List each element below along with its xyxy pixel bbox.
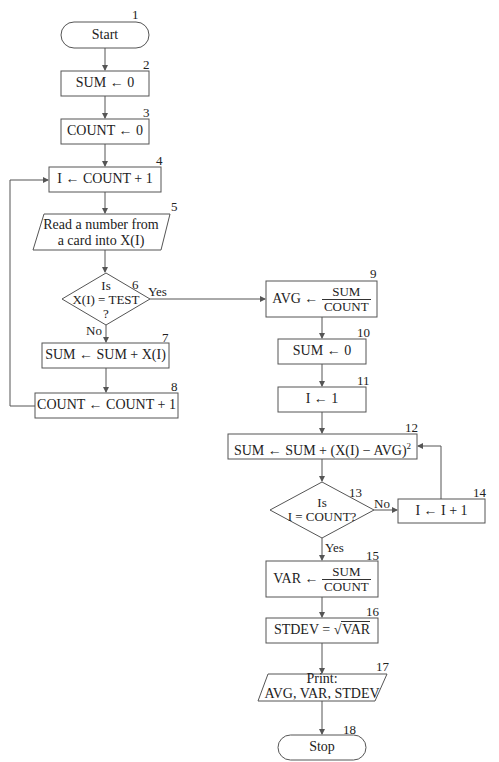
stop-label: Stop — [278, 739, 366, 755]
var-fraction: SUMCOUNT — [322, 565, 371, 594]
flowchart-canvas — [0, 0, 499, 762]
i-init-label: I ← 1 — [278, 391, 366, 407]
node-number: 1 — [132, 7, 139, 23]
var-label: VAR ← SUMCOUNT — [266, 563, 378, 595]
stdev-radicand: VAR — [341, 621, 370, 637]
node-number: 7 — [162, 330, 169, 346]
avg-denominator: COUNT — [322, 300, 371, 314]
stdev-prefix: STDEV = √ — [274, 622, 341, 637]
i-incr-label: I ← I + 1 — [398, 503, 485, 519]
decision13-line2: I = COUNT? — [270, 509, 374, 525]
avg-numerator: SUM — [322, 285, 371, 300]
decision13-yes: Yes — [325, 540, 344, 556]
node-number: 10 — [357, 325, 370, 341]
var-numerator: SUM — [322, 565, 371, 580]
sum-sq-text: SUM ← SUM + (X(I) − AVG) — [234, 443, 407, 458]
read-label-line2: a card into X(I) — [36, 233, 166, 249]
node-number: 11 — [357, 373, 370, 389]
print-label-line1: Print: — [262, 671, 382, 687]
start-label: Start — [61, 27, 149, 43]
var-prefix: VAR ← — [273, 571, 318, 586]
sum-sq-exponent: 2 — [407, 441, 412, 451]
arrow-8-4-loop — [10, 180, 48, 406]
sum-reset-label: SUM ← 0 — [278, 343, 366, 359]
node-number: 8 — [171, 379, 178, 395]
print-label-line2: AVG, VAR, STDEV — [262, 686, 382, 702]
avg-label: AVG ← SUMCOUNT — [266, 283, 377, 315]
arrow-14-12-loop — [418, 446, 441, 499]
avg-prefix: AVG ← — [272, 291, 318, 306]
sum-sq-label: SUM ← SUM + (X(I) − AVG)2 — [228, 438, 417, 459]
node-number: 16 — [366, 604, 379, 620]
node-number: 12 — [405, 420, 418, 436]
node-number: 3 — [143, 105, 150, 121]
avg-fraction: SUMCOUNT — [322, 285, 371, 314]
node-number: 4 — [156, 153, 163, 169]
decision13-no: No — [374, 496, 390, 512]
count-incr-label: COUNT ← COUNT + 1 — [35, 397, 178, 413]
decision6-yes: Yes — [148, 284, 167, 300]
count-init-label: COUNT ← 0 — [61, 123, 149, 139]
i-assign-label: I ← COUNT + 1 — [49, 171, 161, 187]
read-label-line1: Read a number from — [36, 217, 166, 233]
decision6-no: No — [86, 323, 102, 339]
node-number: 9 — [370, 266, 377, 282]
node-number: 15 — [366, 548, 379, 564]
sum-init-label: SUM ← 0 — [61, 75, 149, 91]
node-number: 18 — [343, 722, 356, 738]
node-number: 5 — [171, 199, 178, 215]
node-number: 2 — [143, 57, 150, 73]
node-number: 14 — [473, 485, 486, 501]
sum-accum-label: SUM ← SUM + X(I) — [42, 347, 169, 363]
stdev-label: STDEV = √VAR — [266, 622, 378, 638]
var-denominator: COUNT — [322, 580, 371, 594]
decision6-line3: ? — [62, 306, 150, 322]
